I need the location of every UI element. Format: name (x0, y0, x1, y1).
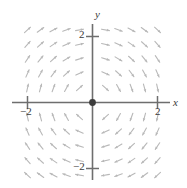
field-arrow (143, 128, 147, 135)
field-arrow (155, 143, 159, 150)
field-arrow (102, 160, 110, 163)
field-arrow (63, 43, 70, 46)
field-arrow (65, 114, 69, 121)
field-arrow (76, 57, 84, 60)
field-arrow (26, 128, 29, 135)
field-arrow (38, 143, 43, 149)
field-arrow (39, 84, 42, 92)
field-arrow (102, 29, 110, 32)
field-arrow (128, 42, 135, 47)
field-arrow (25, 172, 31, 177)
field-arrow (37, 173, 43, 178)
field-arrow (102, 72, 109, 75)
x-axis-label: x (173, 97, 178, 108)
field-arrow (25, 41, 30, 47)
field-arrow (155, 158, 160, 164)
field-arrow (63, 159, 70, 162)
field-arrow (76, 43, 84, 46)
field-arrow (102, 130, 109, 133)
field-arrow (25, 158, 30, 164)
field-arrow (63, 173, 71, 176)
field-arrow (76, 144, 84, 147)
field-arrow (38, 42, 44, 47)
field-arrow (103, 85, 109, 90)
field-arrow (50, 42, 57, 47)
field-arrow (65, 84, 69, 91)
field-arrow (115, 174, 123, 177)
field-arrow (50, 28, 57, 32)
field-arrow (115, 43, 122, 46)
field-arrow (63, 57, 70, 61)
field-arrow (76, 130, 83, 133)
field-arrow (141, 28, 147, 33)
field-arrow (128, 173, 135, 177)
field-arrow (142, 158, 148, 163)
field-arrow (52, 84, 55, 92)
field-arrow (143, 70, 147, 77)
field-arrow (102, 174, 110, 177)
field-arrow (117, 114, 121, 121)
tick-label-y-positive: 2 (79, 29, 85, 40)
field-arrow (141, 173, 147, 178)
field-arrow (63, 144, 70, 148)
field-arrow (103, 114, 109, 119)
field-arrow (129, 70, 134, 76)
field-arrow (27, 84, 30, 92)
field-arrow (116, 129, 122, 134)
field-arrow (39, 113, 42, 121)
axes-layer (12, 24, 170, 180)
origin-equilibrium-dot (89, 99, 96, 106)
field-arrow (142, 143, 147, 149)
field-arrow (129, 143, 135, 148)
field-arrow (38, 56, 43, 62)
field-arrow (51, 128, 56, 134)
field-arrow (142, 42, 148, 47)
field-arrow (77, 85, 83, 90)
field-arrow (50, 173, 57, 177)
field-arrow (25, 143, 29, 150)
field-arrow (51, 143, 57, 148)
direction-field-figure: y x 2 −2 −2 2 (0, 0, 187, 188)
field-arrow (155, 56, 159, 63)
field-arrow (142, 56, 147, 62)
field-arrow (76, 174, 84, 177)
field-arrow (157, 84, 160, 92)
field-arrow (39, 128, 43, 135)
field-arrow (115, 29, 123, 32)
field-arrow (37, 28, 43, 33)
field-arrow (128, 28, 135, 32)
tick-label-x-positive: 2 (155, 106, 161, 117)
field-arrow (156, 70, 159, 77)
field-arrow (63, 28, 71, 31)
field-arrow (128, 158, 135, 163)
field-arrow (130, 84, 133, 92)
field-arrow (25, 27, 31, 32)
field-arrow (129, 128, 134, 134)
field-arrow (77, 114, 83, 119)
field-arrow (102, 58, 110, 61)
field-arrow (102, 43, 110, 46)
field-arrow (155, 41, 160, 47)
field-arrow (50, 158, 57, 163)
field-arrow (51, 56, 57, 61)
field-arrow (52, 113, 55, 121)
field-arrow (156, 128, 159, 135)
field-arrow (115, 57, 122, 61)
y-axis-label: y (95, 9, 100, 20)
field-arrow (143, 84, 146, 92)
tick-label-y-negative: −2 (73, 161, 85, 172)
field-arrow (155, 172, 161, 177)
field-arrow (130, 113, 133, 121)
field-arrow (117, 84, 121, 91)
field-arrow (38, 158, 44, 163)
field-arrow (64, 71, 70, 76)
field-arrow (115, 159, 122, 162)
field-arrow (25, 56, 29, 63)
field-arrow (51, 70, 56, 76)
field-arrow (116, 71, 122, 76)
field-arrow (115, 144, 122, 148)
tick-label-x-negative: −2 (20, 106, 32, 117)
field-arrow (143, 113, 146, 121)
field-arrow (102, 145, 110, 148)
field-arrow (76, 72, 83, 75)
